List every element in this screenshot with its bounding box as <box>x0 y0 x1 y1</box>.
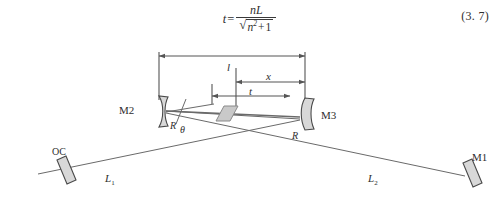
mirror-m1-body <box>463 159 482 187</box>
radius-label-m3: R <box>292 131 298 141</box>
mirror-label-m2: M2 <box>119 105 134 116</box>
beam-m2-to-m1 <box>166 113 465 176</box>
dimension-label-x: x <box>266 71 271 82</box>
mirror-m3-body <box>301 98 314 130</box>
beam-m3-to-oc <box>38 120 300 174</box>
beam-angle-reference <box>166 104 214 112</box>
angle-label-theta: θ <box>180 125 185 135</box>
mirror-label-oc: OC <box>52 147 66 157</box>
mirror-m1 <box>463 159 482 187</box>
optical-cavity-diagram <box>0 0 499 210</box>
arm-label-l1: L1 <box>105 173 115 187</box>
radius-label-m2: R <box>170 121 176 131</box>
mirror-m3 <box>301 98 314 130</box>
mirror-label-m1: M1 <box>472 152 487 163</box>
arm-label-l2: L2 <box>368 173 378 187</box>
dimension-label-l: l <box>227 62 230 73</box>
mirror-label-m3: M3 <box>321 110 336 121</box>
extension-lines <box>159 52 305 106</box>
beam-paths <box>38 99 465 176</box>
dimension-label-t: t <box>249 86 252 97</box>
